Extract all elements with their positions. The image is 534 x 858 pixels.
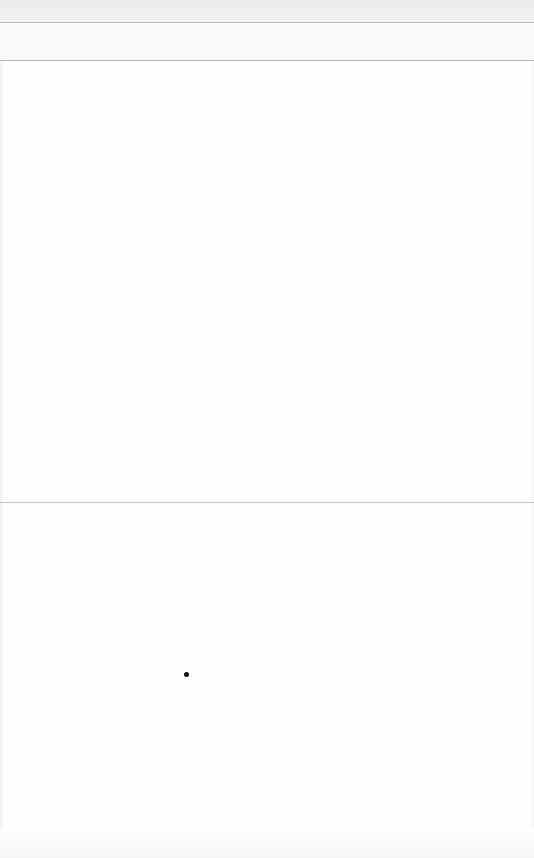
cursor-dot-icon — [184, 672, 189, 677]
bottom-fade — [0, 828, 534, 858]
top-header-band — [0, 0, 534, 22]
header-area — [0, 23, 534, 60]
content-divider — [0, 502, 534, 503]
blank-page — [0, 0, 534, 858]
left-edge-shadow — [0, 61, 4, 858]
header-bottom-divider — [0, 60, 534, 61]
